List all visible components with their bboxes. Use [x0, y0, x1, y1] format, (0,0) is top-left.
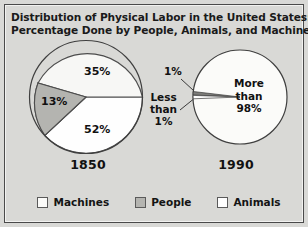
pie-1990-leader-line-animals — [180, 100, 193, 111]
pie-1850-year: 1850 — [28, 157, 148, 172]
chart-title-line-2: Percentage Done by People, Animals, and … — [11, 24, 299, 37]
pie-1990-callout-people: 1% — [164, 65, 182, 77]
chart-title-line-1: Distribution of Physical Labor in the Un… — [11, 11, 299, 24]
legend-label-people: People — [151, 196, 191, 208]
legend-swatch-animals — [217, 197, 228, 208]
pie-1990-callout-animals-line-1: Less — [150, 91, 176, 103]
pie-1850-label-machines: 13% — [41, 95, 67, 108]
pie-1990-callout-animals-line-2: than — [150, 103, 177, 115]
chart-title: Distribution of Physical Labor in the Un… — [11, 11, 299, 37]
pie-1990-callout-animals: Less than 1% — [150, 91, 177, 127]
legend-label-animals: Animals — [233, 196, 280, 208]
pie-1850-label-people: 35% — [84, 65, 110, 78]
pie-1990-callout-machines-line-1: More — [234, 77, 264, 89]
plot-area: 35% 13% 52% 1850 1% — [10, 39, 308, 189]
legend-label-machines: Machines — [53, 196, 109, 208]
legend-swatch-machines — [37, 197, 48, 208]
legend-item-machines: Machines — [37, 196, 109, 208]
chart-legend: Machines People Animals — [10, 191, 308, 213]
pie-1990-callout-machines-line-3: 98% — [236, 102, 261, 114]
legend-swatch-people — [135, 197, 146, 208]
legend-item-people: People — [135, 196, 191, 208]
pie-1990-callout-animals-line-3: 1% — [155, 115, 173, 127]
chart-frame: Distribution of Physical Labor in the Un… — [4, 4, 304, 223]
pie-1990-callout-machines-line-2: than — [235, 90, 262, 102]
pie-1850-label-animals: 52% — [84, 123, 110, 136]
pie-1990-leader-line-people — [181, 79, 194, 91]
pie-1990-callout-machines: More than 98% — [234, 77, 264, 115]
pie-1990-year: 1990 — [172, 157, 300, 172]
pie-chart-1850: 35% 13% 52% 1850 — [28, 39, 148, 155]
pie-chart-1990: 1% Less than 1% More than 98% 1990 — [172, 39, 300, 155]
chart-figure: Distribution of Physical Labor in the Un… — [0, 0, 308, 227]
legend-item-animals: Animals — [217, 196, 280, 208]
